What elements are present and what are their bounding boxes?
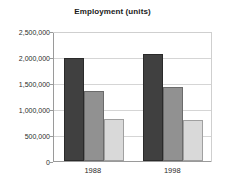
plot-area	[53, 32, 212, 162]
bar-1988-series-2	[84, 91, 104, 161]
bar-1988-series-3	[104, 119, 124, 161]
y-axis-tick-label: 2,500,000	[2, 29, 50, 36]
bar-1998-series-3	[183, 120, 203, 161]
y-axis-tick-label: 0	[2, 159, 50, 166]
y-axis: 0500,0001,000,0001,500,0002,000,0002,500…	[0, 0, 50, 185]
employment-bar-chart: Employment (units) 0500,0001,000,0001,50…	[0, 0, 225, 185]
y-axis-tick-label: 500,000	[2, 133, 50, 140]
gridline	[54, 32, 212, 33]
y-axis-tick-label: 2,000,000	[2, 55, 50, 62]
x-axis-tick-label: 1998	[133, 166, 213, 175]
x-axis-tick-label: 1988	[53, 166, 133, 175]
bar-1998-series-2	[163, 87, 183, 161]
y-axis-tick-label: 1,000,000	[2, 107, 50, 114]
bar-1988-series-1	[64, 58, 84, 161]
y-axis-tick-label: 1,500,000	[2, 81, 50, 88]
bar-1998-series-1	[143, 54, 163, 161]
y-axis-tick-mark	[49, 162, 53, 163]
